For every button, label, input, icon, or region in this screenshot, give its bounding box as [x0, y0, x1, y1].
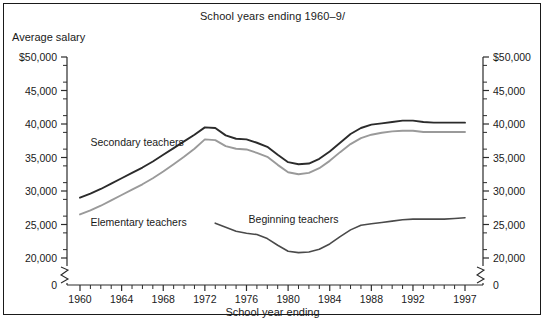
axis-break-marker-left — [61, 267, 68, 283]
plot-area — [0, 0, 545, 333]
y-tick-label-left-20000: 20,000 — [25, 252, 57, 264]
x-tick-label-1984: 1984 — [318, 293, 341, 305]
y-tick-label-left-50000: $50,000 — [19, 51, 57, 63]
series-label-secondary-teachers: Secondary teachers — [90, 136, 183, 148]
x-tick-label-1960: 1960 — [68, 293, 91, 305]
x-tick-label-1976: 1976 — [235, 293, 258, 305]
y-tick-label-left-45000: 45,000 — [25, 85, 57, 97]
x-tick-label-1968: 1968 — [152, 293, 175, 305]
y-tick-label-right-50000: $50,000 — [493, 51, 531, 63]
chart-figure: School years ending 1960–9/ Average sala… — [0, 0, 545, 333]
x-tick-label-1997: 1997 — [453, 293, 476, 305]
y-tick-label-left-35000: 35,000 — [25, 152, 57, 164]
y-tick-label-right-40000: 40,000 — [493, 118, 525, 130]
y-tick-label-right-45000: 45,000 — [493, 85, 525, 97]
series-label-beginning-teachers: Beginning teachers — [249, 213, 339, 225]
y-tick-label-left-40000: 40,000 — [25, 118, 57, 130]
y-tick-label-right-25000: 25,000 — [493, 219, 525, 231]
y-tick-label-left-0: 0 — [51, 279, 57, 291]
axis-break-marker-right — [477, 267, 484, 283]
y-tick-label-left-25000: 25,000 — [25, 219, 57, 231]
series-label-elementary-teachers: Elementary teachers — [90, 216, 186, 228]
y-tick-label-right-30000: 30,000 — [493, 185, 525, 197]
x-tick-label-1988: 1988 — [360, 293, 383, 305]
y-tick-label-left-30000: 30,000 — [25, 185, 57, 197]
x-tick-label-1972: 1972 — [193, 293, 216, 305]
y-tick-label-right-35000: 35,000 — [493, 152, 525, 164]
y-tick-label-right-20000: 20,000 — [493, 252, 525, 264]
y-tick-label-right-0: 0 — [493, 279, 499, 291]
x-tick-label-1992: 1992 — [401, 293, 424, 305]
x-tick-label-1980: 1980 — [276, 293, 299, 305]
x-tick-label-1964: 1964 — [110, 293, 133, 305]
